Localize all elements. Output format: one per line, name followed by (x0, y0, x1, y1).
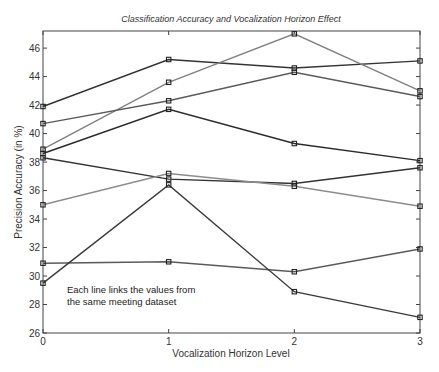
y-tick-label: 40 (29, 128, 41, 139)
series-line (43, 34, 420, 149)
series-dataset-3 (41, 70, 422, 126)
y-tick-label: 36 (29, 185, 41, 196)
annotation-line-2: the same meeting dataset (67, 296, 177, 307)
series-line (43, 249, 420, 272)
chart-title: Classification Accuracy and Vocalization… (121, 14, 341, 24)
y-tick-label: 26 (29, 328, 41, 339)
y-tick-label: 42 (29, 100, 41, 111)
series-dataset-6 (41, 171, 422, 208)
y-tick-label: 32 (29, 242, 41, 253)
annotation-line-1: Each line links the values from (67, 284, 195, 295)
series-line (43, 109, 420, 160)
x-tick-label: 3 (417, 336, 423, 347)
x-tick-label: 2 (292, 336, 298, 347)
x-axis-label: Vocalization Horizon Level (172, 348, 289, 359)
series-line (43, 72, 420, 123)
y-tick-label: 28 (29, 299, 41, 310)
y-tick-label: 30 (29, 271, 41, 282)
y-axis-label: Precision Accuracy (in %) (13, 125, 24, 238)
series-line (43, 59, 420, 106)
y-tick-label: 46 (29, 43, 41, 54)
series-dataset-1 (41, 57, 422, 108)
y-tick-label: 34 (29, 214, 41, 225)
series-group (41, 32, 422, 320)
series-dataset-4 (41, 107, 422, 163)
x-tick-label: 1 (166, 336, 172, 347)
series-dataset-7 (41, 247, 422, 274)
y-tick-label: 38 (29, 157, 41, 168)
y-tick-label: 44 (29, 71, 41, 82)
series-dataset-5 (41, 156, 422, 186)
x-tick-label: 0 (40, 336, 46, 347)
chart: Classification Accuracy and Vocalization… (0, 0, 439, 372)
series-line (43, 173, 420, 206)
